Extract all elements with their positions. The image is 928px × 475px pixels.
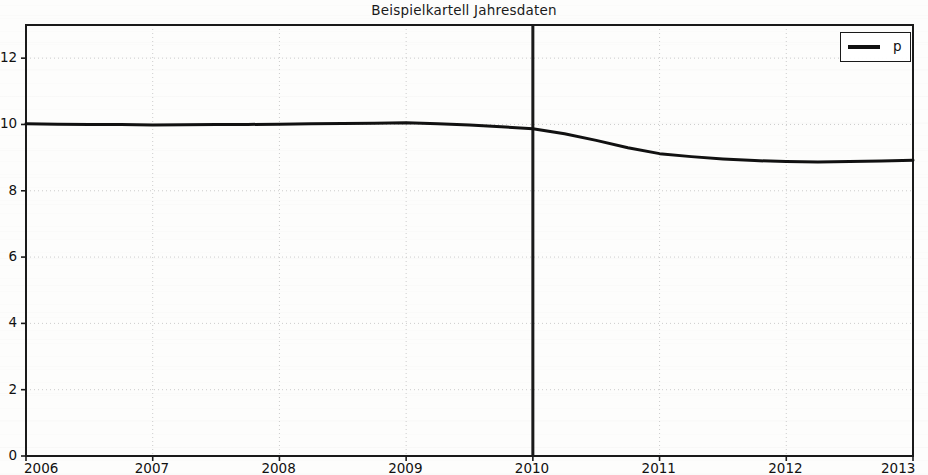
x-tick-label: 2008 — [261, 460, 295, 475]
x-tick-label: 2006 — [24, 460, 58, 475]
legend: p — [840, 32, 911, 62]
legend-entry-label: p — [893, 40, 902, 54]
legend-entry: p — [841, 33, 910, 61]
data-series — [26, 123, 913, 162]
figure-canvas: Beispielkartell Jahresdaten 024681012 20… — [0, 0, 928, 475]
x-tick-label: 2009 — [388, 460, 422, 475]
x-tick-label: 2010 — [515, 460, 549, 475]
y-tick-label: 8 — [0, 182, 17, 198]
y-tick-label: 10 — [0, 115, 17, 131]
y-tick-label: 6 — [0, 248, 17, 264]
x-tick-label: 2007 — [135, 460, 169, 475]
gridlines — [26, 25, 913, 456]
x-tick-label: 2011 — [642, 460, 676, 475]
plot-area — [0, 0, 928, 475]
y-tick-label: 4 — [0, 314, 17, 330]
x-tick-label: 2012 — [768, 460, 802, 475]
x-tick-label: 2013 — [881, 460, 915, 475]
legend-line-swatch — [848, 45, 880, 49]
y-tick-label: 2 — [0, 381, 17, 397]
tick-marks — [21, 58, 913, 461]
y-tick-label: 12 — [0, 49, 17, 65]
axis-frame — [26, 25, 913, 456]
y-tick-label: 0 — [0, 447, 17, 463]
